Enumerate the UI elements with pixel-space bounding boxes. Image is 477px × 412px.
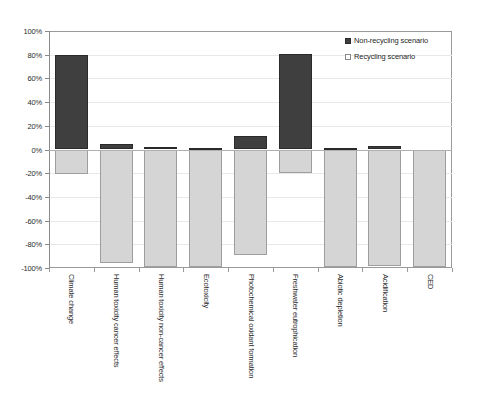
chart-legend: Non-recycling scenarioRecycling scenario bbox=[345, 36, 465, 68]
x-axis-tick-label: Abiotic depletion bbox=[336, 274, 345, 327]
x-axis-label-slot: Human toxicity cancer effects bbox=[109, 274, 123, 394]
legend-swatch-icon bbox=[345, 38, 351, 44]
legend-item-label: Non-recycling scenario bbox=[354, 36, 428, 45]
x-axis-tick-label: CED bbox=[425, 274, 434, 289]
x-axis-label-slot: CED bbox=[423, 274, 437, 394]
x-axis-tick-label: Human toxicity non-cancer effects bbox=[156, 274, 165, 382]
bar-chart: 100%80%60%40%20%0%-20%-40%-60%-80%-100% … bbox=[0, 0, 477, 412]
x-axis-label-slot: Abiotic depletion bbox=[333, 274, 347, 394]
x-axis-tick bbox=[49, 268, 50, 272]
y-axis-tick-label: 20% bbox=[28, 121, 42, 130]
bar-recycling[interactable] bbox=[324, 150, 357, 267]
bar-recycling[interactable] bbox=[279, 150, 312, 174]
legend-item-label: Recycling scenario bbox=[354, 52, 415, 61]
bar-recycling[interactable] bbox=[234, 150, 267, 255]
x-axis-label-slot: Ecotoxicity bbox=[199, 274, 213, 394]
x-axis-tick-label: Human toxicity cancer effects bbox=[112, 274, 121, 367]
x-axis-tick-label: Photochemical oxidant formation bbox=[246, 274, 255, 378]
x-axis-tick bbox=[94, 268, 95, 272]
x-axis-tick bbox=[139, 268, 140, 272]
bar-recycling[interactable] bbox=[413, 150, 446, 267]
bar-non-recycling[interactable] bbox=[55, 55, 88, 150]
x-axis-label-slot: Acidification bbox=[378, 274, 392, 394]
x-axis-tick-label: Ecotoxicity bbox=[201, 274, 210, 308]
y-axis-tick-label: -40% bbox=[25, 192, 42, 201]
x-axis-label-slot: Photochemical oxidant formation bbox=[244, 274, 258, 394]
x-axis-tick bbox=[407, 268, 408, 272]
legend-item[interactable]: Non-recycling scenario bbox=[345, 36, 465, 45]
y-axis-tick-label: 40% bbox=[28, 98, 42, 107]
x-axis-tick bbox=[228, 268, 229, 272]
y-axis-tick-label: 100% bbox=[24, 27, 42, 36]
x-axis-tick-label: Acidification bbox=[380, 274, 389, 312]
y-axis-tick-label: 60% bbox=[28, 74, 42, 83]
x-axis-tick-label: Freshwater eutrophication bbox=[291, 274, 300, 357]
x-axis-tick bbox=[362, 268, 363, 272]
legend-item[interactable]: Recycling scenario bbox=[345, 52, 465, 61]
x-axis-tick bbox=[183, 268, 184, 272]
x-axis-tick bbox=[452, 268, 453, 272]
x-axis-tick-label: Climate change bbox=[67, 274, 76, 324]
x-axis-tick bbox=[273, 268, 274, 272]
bar-non-recycling[interactable] bbox=[234, 136, 267, 149]
bar-recycling[interactable] bbox=[144, 150, 177, 267]
legend-swatch-icon bbox=[345, 54, 351, 60]
x-axis-label-slot: Climate change bbox=[64, 274, 78, 394]
x-axis-label-slot: Human toxicity non-cancer effects bbox=[154, 274, 168, 394]
x-axis-tick bbox=[318, 268, 319, 272]
bar-recycling[interactable] bbox=[189, 150, 222, 267]
bar-recycling[interactable] bbox=[368, 150, 401, 266]
bar-non-recycling[interactable] bbox=[279, 54, 312, 150]
y-axis-tick-label: 0% bbox=[32, 145, 42, 154]
x-axis-label-slot: Freshwater eutrophication bbox=[288, 274, 302, 394]
zero-axis-line bbox=[49, 150, 452, 151]
y-axis-tick-label: -100% bbox=[21, 264, 42, 273]
bar-recycling[interactable] bbox=[100, 150, 133, 264]
bar-recycling[interactable] bbox=[55, 150, 88, 175]
y-axis-tick-label: -20% bbox=[25, 169, 42, 178]
y-axis-tick-label: -80% bbox=[25, 240, 42, 249]
y-axis-tick-label: -60% bbox=[25, 216, 42, 225]
y-axis-tick-label: 80% bbox=[28, 50, 42, 59]
